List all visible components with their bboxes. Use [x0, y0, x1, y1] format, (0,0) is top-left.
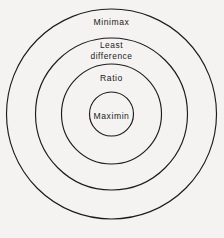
- ring-label-line: Least: [100, 40, 123, 50]
- ring-label-line: Minimax: [94, 17, 130, 27]
- ring-label-line: Maximin: [94, 111, 130, 121]
- ring-label-maximin: Maximin: [94, 111, 130, 121]
- ring-label-minimax: Minimax: [94, 17, 130, 27]
- ring-label-line: Ratio: [100, 73, 123, 83]
- ring-label-ratio: Ratio: [100, 73, 123, 83]
- ring-label-line: difference: [90, 51, 132, 61]
- figure-container: MinimaxLeastdifferenceRatioMaximin: [0, 0, 224, 238]
- concentric-circles-diagram: MinimaxLeastdifferenceRatioMaximin: [0, 0, 224, 238]
